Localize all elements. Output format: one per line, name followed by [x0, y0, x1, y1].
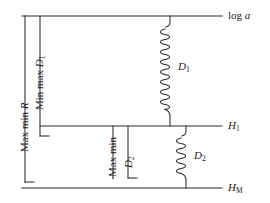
- baseline-label-hm: HM: [228, 182, 243, 194]
- spring-d2-helix: [177, 138, 186, 174]
- spring-d1-bottom-lead: [165, 110, 170, 127]
- bracket-label-d2: D2: [123, 156, 135, 168]
- spring-label-d2: D2: [194, 150, 206, 162]
- baseline-label-h1: H1: [228, 120, 240, 132]
- spring-label-d1: D1: [178, 61, 190, 73]
- bracket-label-max-min-r: Max min R: [19, 102, 30, 152]
- diagram-canvas: log a H1 HM D1 D2 Max min R Min max D1 M…: [0, 0, 270, 203]
- spring-d2-bottom-lead: [181, 174, 186, 189]
- bracket-label-min-max-d1: Min max D1: [34, 56, 46, 110]
- spring-d1-top-lead: [166, 16, 170, 27]
- spring-d1-helix: [161, 29, 170, 110]
- baseline-label-log-a: log a: [228, 10, 250, 21]
- spring-d2-top-lead: [182, 126, 186, 136]
- bracket-label-max-min: Max min: [107, 137, 118, 177]
